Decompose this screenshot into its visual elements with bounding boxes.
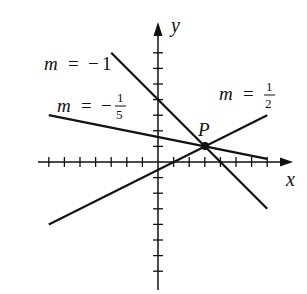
label-eq: = [68, 53, 79, 74]
label-slope-neg-1-5: m = − 1 5 [57, 90, 126, 122]
point-p-label: P [197, 119, 210, 140]
slope-diagram: x y P m = − 1 m = − 1 5 m = 1 2 [0, 0, 307, 294]
label-eq: = [243, 83, 254, 104]
x-axis-label: x [285, 168, 295, 190]
label-eq: = [81, 95, 92, 116]
x-axis: x [38, 157, 295, 190]
label-var: m [219, 83, 233, 104]
y-axis: y [153, 14, 180, 290]
x-axis-arrow-icon [280, 158, 293, 167]
line-m-neg-1 [111, 53, 267, 209]
label-value: 1 [102, 53, 112, 74]
label-var: m [57, 95, 71, 116]
label-denominator: 2 [265, 96, 272, 111]
label-sign: − [88, 53, 99, 74]
label-sign: − [101, 95, 112, 116]
label-slope-1-2: m = 1 2 [219, 79, 275, 111]
label-slope-neg-1: m = − 1 [44, 53, 112, 74]
label-numerator: 1 [266, 79, 273, 94]
label-numerator: 1 [117, 90, 124, 105]
label-var: m [44, 53, 58, 74]
label-denominator: 5 [116, 107, 123, 122]
y-axis-arrow-icon [154, 22, 163, 36]
y-axis-label: y [169, 14, 180, 37]
point-p [201, 142, 209, 150]
